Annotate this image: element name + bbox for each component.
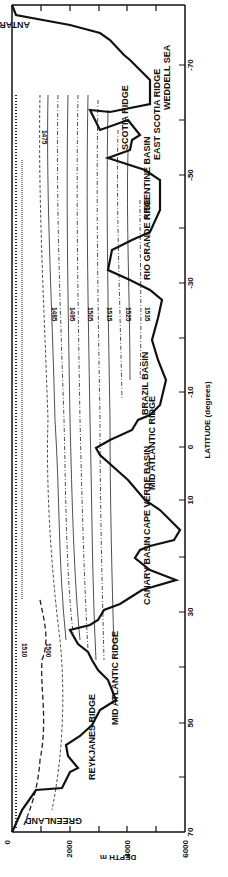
feature-east-scotia-ridge: EAST SCOTIA RIDGE [152, 69, 162, 160]
feature-mid-atlantic-ridge-north: MID ATLANTIC RIDGE [110, 631, 120, 725]
contour-label-1495: 1495 [69, 307, 76, 322]
lat-tick-minus10: -10 [186, 386, 195, 398]
lat-tick-50: 50 [186, 718, 195, 727]
section-diagram: 1475 1485 1495 1505 1515 1525 1535 1500 … [0, 0, 228, 877]
contour-label-1510: 1510 [21, 643, 28, 658]
depth-axis-label: DEPTH m [100, 853, 136, 862]
lat-tick-0: 0 [186, 444, 195, 449]
feature-antarctica: ANTARCTICA [0, 20, 30, 30]
lat-tick-70: 70 [186, 827, 195, 836]
feature-argentine-basin: ARGENTINE BASIN [142, 136, 152, 220]
depth-tick-0: 0 [3, 839, 12, 844]
feature-reykjanes: REYKJANES RIDGE [87, 694, 97, 780]
depth-tick-6000: 6000 [181, 839, 190, 857]
contour-label-1525: 1525 [125, 307, 132, 322]
sound-speed-contours [16, 95, 141, 830]
feature-scotia-ridge: SCOTIA RIDGE [120, 85, 130, 150]
feature-greenland: GREENLAND [24, 816, 82, 826]
lat-tick-minus70: -70 [186, 59, 195, 71]
contour-label-1505: 1505 [87, 307, 94, 322]
lat-tick-10: 10 [186, 495, 195, 504]
feature-weddell-sea: WEDDELL SEA [162, 44, 172, 110]
depth-tick-2000: 2000 [65, 839, 74, 857]
contour-label-1485: 1485 [51, 307, 58, 322]
contour-label-1515: 1515 [106, 307, 113, 322]
feature-brazil-basin: BRAZIL BASIN [140, 352, 150, 415]
contour-label-1535: 1535 [144, 307, 151, 322]
lat-tick-30: 30 [186, 607, 195, 616]
lat-tick-minus50: -50 [186, 169, 195, 181]
lat-tick-minus30: -30 [186, 277, 195, 289]
latitude-axis-label: LATITUDE (degrees) [203, 381, 212, 459]
feature-canary-basin: CANARY BASIN [142, 536, 152, 605]
contour-label-1500: 1500 [45, 643, 52, 658]
contour-label-1475: 1475 [41, 130, 48, 145]
